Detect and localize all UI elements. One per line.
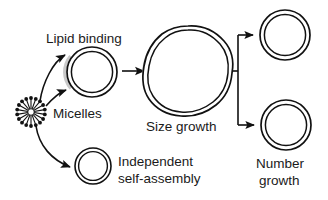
label-independent-self-assembly-line2: self-assembly [118, 171, 201, 186]
vesicle-independent-self-assembly [75, 148, 111, 184]
connection-micelle-to-lipid-upper [40, 55, 65, 101]
label-micelles: Micelles [53, 106, 102, 121]
vesicle-lipid-binding [65, 47, 117, 97]
vesicle-growth-diagram: Lipid binding Micelles Size growth Indep… [0, 0, 328, 200]
label-size-growth: Size growth [146, 119, 217, 134]
connection-micelle-to-independent [36, 126, 70, 167]
label-independent-self-assembly-line1: Independent [118, 154, 193, 169]
connection-micelle-to-lipid-lower [46, 90, 66, 106]
vesicle-number-growth-top [260, 10, 310, 60]
label-number-growth-line1: Number [256, 156, 305, 171]
label-number-growth-line2: growth [259, 173, 300, 188]
micelle-cluster-icon [15, 96, 46, 128]
vesicle-size-growth [143, 26, 233, 116]
vesicle-number-growth-bottom [261, 100, 311, 150]
diagram-canvas: Lipid binding Micelles Size growth Indep… [0, 0, 328, 200]
label-lipid-binding: Lipid binding [46, 31, 122, 46]
